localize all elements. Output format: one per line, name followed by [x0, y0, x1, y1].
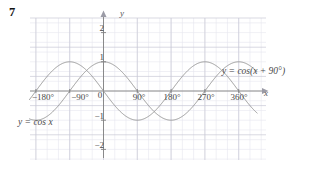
trig-graph-figure	[0, 0, 314, 172]
xtick-label-3: 90°	[123, 92, 155, 102]
y-axis-name: y	[120, 8, 124, 18]
xtick-label-4: 180°	[154, 92, 190, 102]
ytick-label-neg2: −2	[88, 140, 104, 150]
ytick-label-1: 1	[92, 52, 104, 62]
ytick-label-2: 2	[92, 23, 104, 33]
xtick-label-0: −180°	[23, 92, 63, 102]
xtick-label-2: 0	[93, 90, 107, 100]
xtick-label-5: 270°	[188, 92, 224, 102]
x-axis-name: x	[264, 88, 268, 98]
ytick-label-neg1: −1	[88, 111, 104, 121]
grid-minor	[30, 18, 266, 160]
curve-label-cos-x: y = cos x	[18, 117, 53, 127]
curve-label-cos-x-plus-90-text: y = cos(x + 90°)	[222, 66, 285, 76]
xtick-label-6: 360°	[221, 92, 257, 102]
grid-major	[30, 18, 266, 160]
curve-label-cos-x-text: y = cos x	[18, 117, 53, 127]
curve-label-cos-x-plus-90: y = cos(x + 90°)	[222, 66, 285, 76]
